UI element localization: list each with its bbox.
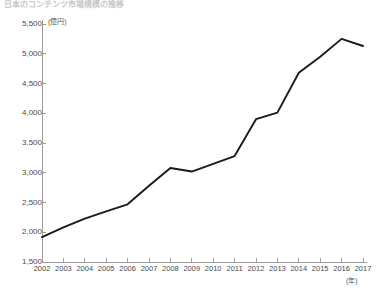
chart-plot xyxy=(0,0,378,294)
chart-figure: 日本のコンテンツ市場規模の推移 (億円) 1,5002,0002,5003,00… xyxy=(0,0,378,294)
data-series-group xyxy=(42,39,363,237)
data-line-1 xyxy=(42,39,363,237)
axis-lines xyxy=(42,20,367,262)
